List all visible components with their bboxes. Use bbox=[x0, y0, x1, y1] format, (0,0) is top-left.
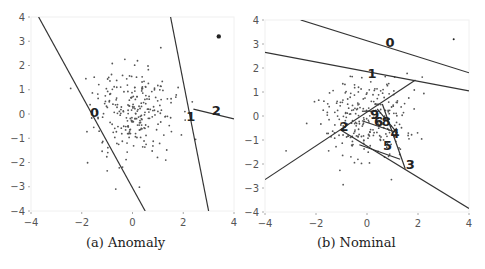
split-lines bbox=[265, 20, 469, 208]
split-label-8: 8 bbox=[382, 114, 391, 129]
x-tick-label: −4 bbox=[24, 217, 39, 228]
x-tick-label: 4 bbox=[231, 217, 237, 228]
split-label-9: 9 bbox=[370, 107, 379, 122]
x-tick-label: −2 bbox=[74, 217, 89, 228]
y-tick-label: 4 bbox=[253, 15, 259, 26]
y-tick-label: 1 bbox=[19, 84, 25, 95]
figure: 43210−1−2−3−4−4−202401243210−1−2−3−4−4−2… bbox=[0, 0, 485, 269]
split-label-2: 2 bbox=[212, 103, 221, 118]
y-tick-label: 2 bbox=[19, 60, 25, 71]
split-line-5 bbox=[359, 145, 400, 159]
y-tick-label: 4 bbox=[19, 12, 25, 23]
split-label-2: 2 bbox=[340, 119, 349, 134]
y-tick-label: −3 bbox=[244, 183, 259, 194]
y-tick-label: 2 bbox=[253, 63, 259, 74]
outlier-point bbox=[453, 38, 455, 40]
plot-anomaly: 43210−1−2−3−4−4−2024012 bbox=[10, 12, 237, 229]
plot-nominal: 43210−1−2−3−4−4−2024012345689 bbox=[244, 15, 472, 230]
x-tick-label: 0 bbox=[129, 217, 135, 228]
split-label-5: 5 bbox=[383, 138, 392, 153]
x-tick-label: 2 bbox=[180, 217, 186, 228]
y-tick-label: 3 bbox=[19, 36, 25, 47]
y-tick-label: 0 bbox=[253, 111, 259, 122]
y-tick-label: −1 bbox=[244, 135, 259, 146]
x-tick-label: 2 bbox=[415, 218, 421, 229]
y-tick-label: −4 bbox=[244, 207, 259, 218]
y-tick-label: −1 bbox=[10, 133, 25, 144]
x-tick-label: −2 bbox=[309, 218, 324, 229]
split-label-3: 3 bbox=[406, 157, 415, 172]
split-label-0: 0 bbox=[385, 35, 394, 50]
y-tick-label: 0 bbox=[19, 109, 25, 120]
y-tick-label: −4 bbox=[10, 206, 25, 217]
split-label-0: 0 bbox=[90, 105, 99, 120]
outlier-point bbox=[217, 34, 221, 38]
split-label-1: 1 bbox=[368, 66, 377, 81]
x-tick-label: 0 bbox=[364, 218, 370, 229]
caption-nominal: (b) Nominal bbox=[317, 235, 396, 250]
y-tick-label: −2 bbox=[10, 157, 25, 168]
y-tick-label: 3 bbox=[253, 39, 259, 50]
x-tick-label: 4 bbox=[466, 218, 472, 229]
data-points bbox=[70, 47, 197, 190]
y-tick-label: 1 bbox=[253, 87, 259, 98]
y-tick-label: −2 bbox=[244, 159, 259, 170]
y-tick-label: −3 bbox=[10, 181, 25, 192]
split-label-1: 1 bbox=[186, 109, 195, 124]
x-tick-label: −4 bbox=[258, 218, 273, 229]
caption-anomaly: (a) Anomaly bbox=[86, 235, 165, 250]
